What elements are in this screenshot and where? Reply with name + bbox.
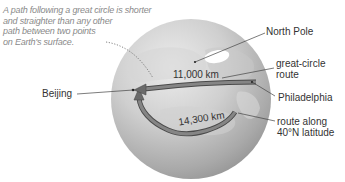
caption-line: path between two points bbox=[3, 26, 133, 37]
caption-line: and straighter than any other bbox=[3, 16, 133, 27]
latitude-route-label: route along 40°N latitude bbox=[277, 116, 334, 138]
caption: A path following a great circle is short… bbox=[3, 5, 133, 47]
great-circle-distance: 11,000 km bbox=[173, 69, 219, 80]
caption-line: on Earth's surface. bbox=[3, 37, 133, 48]
philadelphia-label: Philadelphia bbox=[278, 92, 333, 103]
beijing-label: Beijing bbox=[42, 88, 72, 99]
great-circle-diagram: 11,000 km 14,300 km A path following a g… bbox=[0, 0, 345, 182]
great-circle-route-label: great-circle route bbox=[276, 58, 325, 80]
caption-line: A path following a great circle is short… bbox=[3, 5, 133, 16]
north-pole-label: North Pole bbox=[266, 26, 313, 37]
